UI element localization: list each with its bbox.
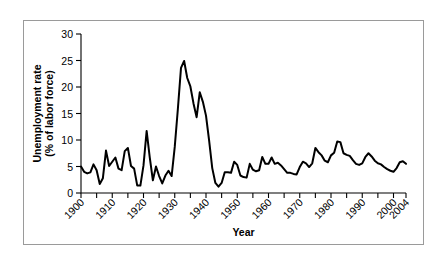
unemployment-line-chart: 051015202530 190019101920193019401950196…: [24, 21, 423, 244]
y-axis-tick-labels: 051015202530: [61, 28, 73, 199]
y-axis-title-line2: (% of labor force): [43, 70, 55, 156]
y-tick-label: 0: [67, 187, 73, 199]
x-tick-label: 1920: [124, 196, 149, 221]
y-tick-label: 20: [61, 81, 73, 93]
figure-frame: 051015202530 190019101920193019401950196…: [23, 20, 424, 245]
x-tick-label: 1940: [186, 196, 211, 221]
x-tick-label: 1910: [93, 196, 118, 221]
x-axis-title: Year: [232, 226, 254, 238]
x-tick-label: 1950: [218, 196, 243, 221]
x-tick-label: 1930: [155, 196, 180, 221]
x-tick-label: 1900: [61, 196, 86, 221]
y-tick-label: 15: [61, 108, 73, 120]
y-axis-tick-marks: [76, 34, 81, 193]
x-tick-label: 1980: [311, 196, 336, 221]
x-tick-label: 1990: [343, 196, 368, 221]
x-tick-label: 1960: [249, 196, 274, 221]
y-tick-label: 30: [61, 28, 73, 40]
chart-axes: [81, 34, 406, 193]
y-tick-label: 5: [67, 161, 73, 173]
y-tick-label: 10: [61, 134, 73, 146]
y-axis-title-line1: Unemployment rate: [31, 64, 43, 162]
y-tick-label: 25: [61, 55, 73, 67]
x-axis-tick-labels: 1900191019201930194019501960197019801990…: [61, 196, 411, 221]
x-tick-label: 1970: [280, 196, 305, 221]
unemployment-rate-series: [81, 61, 406, 187]
